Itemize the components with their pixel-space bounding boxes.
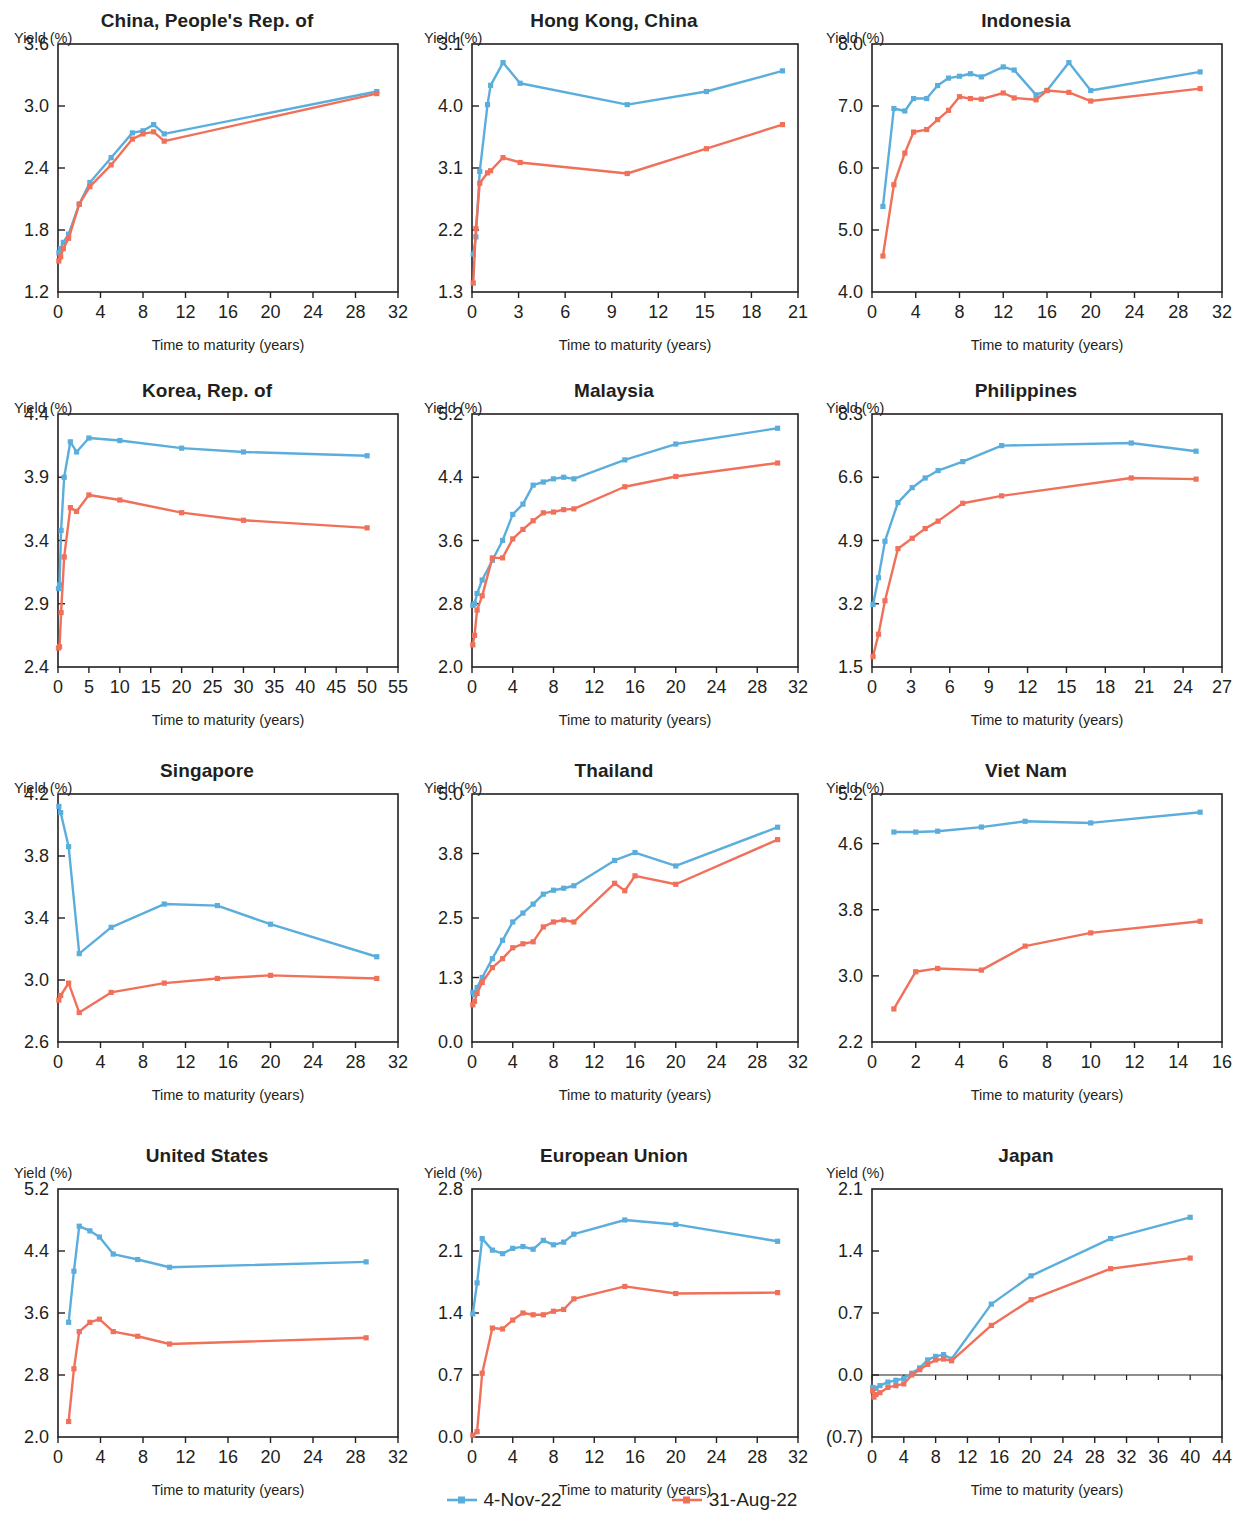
- svg-text:4: 4: [95, 1447, 105, 1467]
- svg-text:0: 0: [53, 677, 63, 697]
- svg-text:4.6: 4.6: [838, 834, 863, 854]
- svg-text:0: 0: [467, 1447, 477, 1467]
- panel-title: Malaysia: [414, 370, 814, 404]
- svg-text:16: 16: [989, 1447, 1009, 1467]
- svg-text:8: 8: [1042, 1052, 1052, 1072]
- legend-item-previous: 31-Aug-22: [672, 1489, 798, 1511]
- plot-area: 1.32.23.14.03.1036912151821Time to matur…: [414, 34, 814, 364]
- svg-text:6.6: 6.6: [838, 467, 863, 487]
- svg-text:12: 12: [584, 677, 604, 697]
- svg-text:4: 4: [508, 1447, 518, 1467]
- svg-text:0.0: 0.0: [438, 1032, 463, 1052]
- svg-text:20: 20: [666, 1052, 686, 1072]
- svg-text:Time to maturity (years): Time to maturity (years): [971, 1087, 1124, 1103]
- svg-text:8: 8: [548, 1052, 558, 1072]
- svg-text:0.7: 0.7: [838, 1303, 863, 1323]
- svg-text:35: 35: [264, 677, 284, 697]
- panel-title: Japan: [814, 1125, 1238, 1169]
- plot-area: 2.02.83.64.45.2048121620242832Time to ma…: [0, 1179, 414, 1509]
- svg-text:32: 32: [788, 1447, 808, 1467]
- panel-title: Singapore: [0, 750, 414, 784]
- panel-viet-nam: Viet Nam Yield (%) 2.23.03.84.65.2024681…: [814, 750, 1238, 1125]
- svg-text:32: 32: [788, 1052, 808, 1072]
- panel-title: United States: [0, 1125, 414, 1169]
- svg-text:28: 28: [1085, 1447, 1105, 1467]
- svg-text:16: 16: [218, 1447, 238, 1467]
- svg-text:24: 24: [1124, 302, 1144, 322]
- svg-text:20: 20: [666, 677, 686, 697]
- svg-text:20: 20: [1021, 1447, 1041, 1467]
- svg-text:4: 4: [954, 1052, 964, 1072]
- svg-text:3.0: 3.0: [24, 970, 49, 990]
- svg-text:5.0: 5.0: [838, 220, 863, 240]
- svg-text:28: 28: [747, 677, 767, 697]
- svg-text:28: 28: [345, 1052, 365, 1072]
- svg-text:9: 9: [984, 677, 994, 697]
- svg-text:24: 24: [303, 1052, 323, 1072]
- svg-text:2.9: 2.9: [24, 594, 49, 614]
- plot-area: 0.00.71.42.12.8048121620242832Time to ma…: [414, 1179, 814, 1509]
- svg-text:8.3: 8.3: [838, 404, 863, 424]
- svg-text:36: 36: [1148, 1447, 1168, 1467]
- svg-text:5.2: 5.2: [24, 1179, 49, 1199]
- svg-text:Time to maturity (years): Time to maturity (years): [559, 1087, 712, 1103]
- svg-text:4.0: 4.0: [838, 282, 863, 302]
- svg-text:8: 8: [548, 677, 558, 697]
- svg-text:16: 16: [1212, 1052, 1232, 1072]
- svg-text:2.1: 2.1: [438, 1241, 463, 1261]
- svg-text:12: 12: [1124, 1052, 1144, 1072]
- plot-area: 4.05.06.07.08.0048121620242832Time to ma…: [814, 34, 1238, 364]
- svg-text:8: 8: [138, 1052, 148, 1072]
- svg-text:3.8: 3.8: [438, 844, 463, 864]
- svg-text:1.4: 1.4: [838, 1241, 863, 1261]
- svg-text:5: 5: [84, 677, 94, 697]
- panel-title: Thailand: [414, 750, 814, 784]
- plot-area: 2.42.93.43.94.40510152025303540455055Tim…: [0, 404, 414, 739]
- panel-title: Indonesia: [814, 0, 1238, 34]
- svg-text:3.1: 3.1: [438, 34, 463, 54]
- svg-text:32: 32: [1212, 302, 1232, 322]
- svg-text:7.0: 7.0: [838, 96, 863, 116]
- svg-text:6: 6: [998, 1052, 1008, 1072]
- svg-text:16: 16: [625, 1052, 645, 1072]
- svg-text:3.1: 3.1: [438, 158, 463, 178]
- svg-text:27: 27: [1212, 677, 1232, 697]
- svg-text:24: 24: [303, 302, 323, 322]
- svg-text:24: 24: [1053, 1447, 1073, 1467]
- svg-text:3.0: 3.0: [838, 966, 863, 986]
- svg-text:30: 30: [233, 677, 253, 697]
- svg-text:2.0: 2.0: [438, 657, 463, 677]
- panel-title: Viet Nam: [814, 750, 1238, 784]
- svg-text:3.6: 3.6: [24, 1303, 49, 1323]
- svg-text:1.3: 1.3: [438, 968, 463, 988]
- panel-singapore: Singapore Yield (%) 2.63.03.43.84.204812…: [0, 750, 414, 1125]
- panel-china: China, People's Rep. of Yield (%) 1.21.8…: [0, 0, 414, 370]
- svg-text:Time to maturity (years): Time to maturity (years): [971, 337, 1124, 353]
- svg-text:28: 28: [1168, 302, 1188, 322]
- svg-text:3.4: 3.4: [24, 531, 49, 551]
- svg-text:1.2: 1.2: [24, 282, 49, 302]
- panel-hong-kong: Hong Kong, China Yield (%) 1.32.23.14.03…: [414, 0, 814, 370]
- svg-text:32: 32: [388, 302, 408, 322]
- svg-text:4.4: 4.4: [438, 467, 463, 487]
- svg-text:3.4: 3.4: [24, 908, 49, 928]
- svg-text:8.0: 8.0: [838, 34, 863, 54]
- svg-text:0: 0: [867, 302, 877, 322]
- svg-text:3.6: 3.6: [24, 34, 49, 54]
- svg-text:2.1: 2.1: [838, 1179, 863, 1199]
- panel-title: Hong Kong, China: [414, 0, 814, 34]
- svg-text:2.0: 2.0: [24, 1427, 49, 1447]
- svg-text:2.2: 2.2: [838, 1032, 863, 1052]
- svg-text:18: 18: [741, 302, 761, 322]
- panel-philippines: Philippines Yield (%) 1.53.24.96.68.3036…: [814, 370, 1238, 750]
- plot-area: 2.02.83.64.45.2048121620242832Time to ma…: [414, 404, 814, 739]
- svg-text:25: 25: [203, 677, 223, 697]
- svg-text:10: 10: [1081, 1052, 1101, 1072]
- plot-area: 0.01.32.53.85.0048121620242832Time to ma…: [414, 784, 814, 1114]
- svg-text:45: 45: [326, 677, 346, 697]
- plot-area: 1.53.24.96.68.30369121518212427Time to m…: [814, 404, 1238, 739]
- legend-label-previous: 31-Aug-22: [709, 1489, 798, 1511]
- svg-text:28: 28: [747, 1052, 767, 1072]
- svg-text:44: 44: [1212, 1447, 1232, 1467]
- svg-text:12: 12: [993, 302, 1013, 322]
